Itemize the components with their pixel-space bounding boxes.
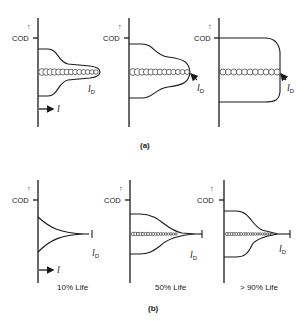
- up-arrow-icon: ↑: [27, 22, 31, 31]
- panel-b2: COD ↑ lD 50% Life: [104, 180, 202, 292]
- up-arrow-icon: ↑: [208, 22, 212, 31]
- damage-length-label: lD: [279, 243, 287, 255]
- damage-zone-circles: [131, 232, 177, 236]
- cod-label: COD: [194, 34, 211, 43]
- damage-circle: [266, 233, 268, 235]
- damage-circle: [175, 233, 177, 235]
- damage-length-label: lD: [88, 83, 96, 95]
- damage-zone-circles: [225, 232, 273, 235]
- damage-circle: [170, 233, 173, 236]
- damage-length-label: lD: [92, 247, 100, 259]
- cod-label: COD: [104, 196, 121, 205]
- life-label: > 90% Life: [240, 283, 279, 292]
- pointer-arrow-icon: [191, 74, 197, 80]
- damage-circle: [271, 233, 273, 235]
- damage-circle: [180, 70, 185, 75]
- damage-circle: [94, 70, 98, 74]
- length-symbol: l: [57, 103, 60, 114]
- up-arrow-icon: ↑: [210, 184, 214, 193]
- caption-a: (a): [140, 141, 150, 150]
- life-label: 50% Life: [155, 283, 187, 292]
- length-symbol: l: [57, 264, 60, 275]
- cod-label: COD: [103, 34, 120, 43]
- crack-envelope: [38, 217, 85, 252]
- damage-circle: [172, 233, 174, 235]
- damage-length-label: lD: [287, 82, 295, 94]
- pointer-arrow-icon: [281, 74, 286, 80]
- damage-length-label: lD: [190, 249, 198, 261]
- panel-a3: COD ↑ lD: [194, 18, 295, 127]
- damage-circle: [185, 70, 190, 75]
- damage-zone-circles: [130, 69, 190, 76]
- life-label: 10% Life: [57, 283, 89, 292]
- damage-circle: [269, 233, 271, 235]
- cod-label: COD: [197, 196, 214, 205]
- damage-circle: [274, 69, 280, 75]
- up-arrow-icon: ↑: [118, 22, 122, 31]
- damage-circle: [264, 233, 266, 235]
- panel-b3: COD ↑ lD > 90% Life: [197, 180, 290, 292]
- damage-length-label: lD: [197, 82, 205, 94]
- panel-a2: COD ↑ lD: [103, 18, 205, 127]
- caption-b: (b): [148, 304, 159, 313]
- up-arrow-icon: ↑: [119, 184, 123, 193]
- damage-zone-circles: [39, 69, 99, 76]
- panel-b1: COD ↑ lD l 10% Life: [12, 180, 100, 292]
- panel-a1: COD ↑ l lD: [12, 18, 100, 127]
- cod-label: COD: [12, 34, 29, 43]
- cod-label: COD: [12, 196, 29, 205]
- damage-zone-circles: [220, 69, 280, 75]
- up-arrow-icon: ↑: [27, 184, 31, 193]
- crack-opening-diagram: COD ↑ l lD COD ↑ lD COD ↑ lD (a) COD ↑: [0, 0, 304, 321]
